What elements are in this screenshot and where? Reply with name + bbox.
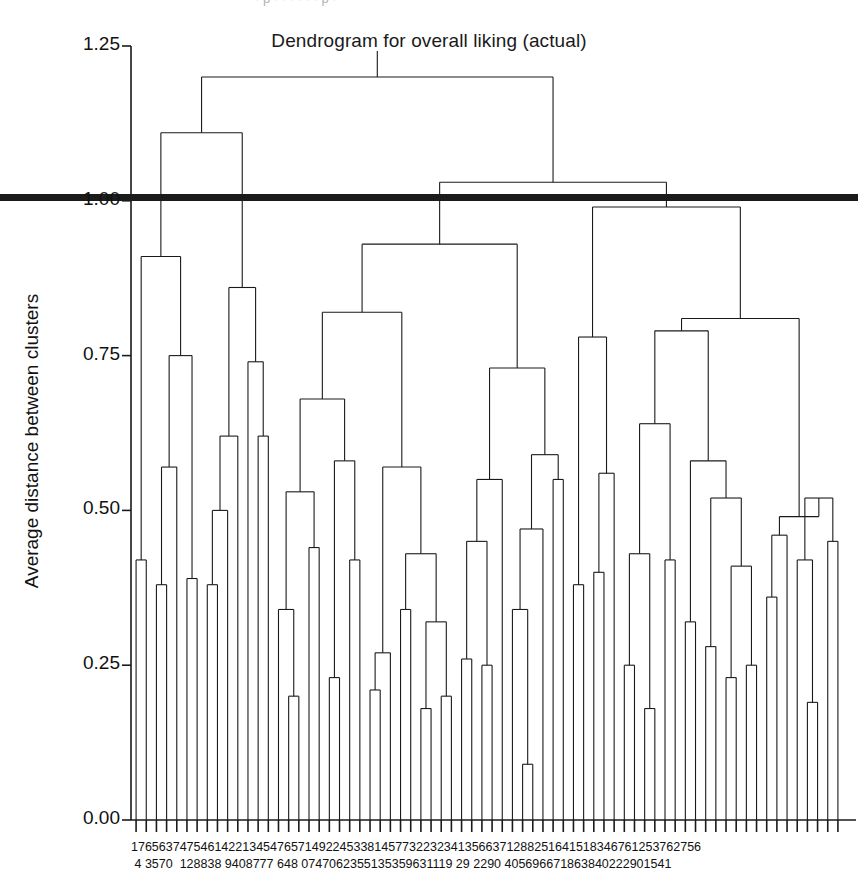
cut-line [0, 194, 858, 201]
x-axis-labels-row-1: 1765637475461422134547657149224533814577… [131, 840, 701, 854]
y-tick-label: 0.00 [42, 807, 120, 829]
y-tick-label: 0.75 [42, 343, 120, 365]
y-tick-label: 0.25 [42, 652, 120, 674]
y-tick-label: 1.00 [42, 188, 120, 210]
dendrogram-plot [0, 0, 858, 895]
x-axis-labels-row-2: 4 3570 128838 9408777 648 07470623551353… [131, 857, 671, 871]
y-tick-label: 1.25 [42, 33, 120, 55]
y-tick-label: 0.50 [42, 497, 120, 519]
dendrogram-figure: · p · · · · · · p · Dendrogram for overa… [0, 0, 858, 895]
